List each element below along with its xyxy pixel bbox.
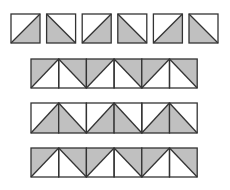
tile — [114, 148, 142, 177]
joined-row-3 — [31, 148, 197, 177]
tile — [142, 103, 170, 133]
tile — [170, 59, 198, 88]
tile-pattern-diagram — [0, 0, 230, 190]
tile — [59, 103, 87, 133]
tile — [114, 59, 142, 88]
tile — [59, 59, 87, 88]
tile — [153, 14, 182, 43]
tile — [118, 14, 147, 43]
joined-row-1 — [31, 59, 197, 88]
tile — [86, 59, 114, 88]
tile — [170, 103, 198, 133]
tile — [114, 103, 142, 133]
tile — [82, 14, 111, 43]
tile — [170, 148, 198, 177]
tile — [11, 14, 40, 43]
tile — [86, 148, 114, 177]
tile — [31, 59, 59, 88]
tile — [47, 14, 76, 43]
separate-tiles — [11, 14, 218, 43]
tile — [142, 59, 170, 88]
joined-row-2 — [31, 103, 197, 133]
tile — [86, 103, 114, 133]
tile — [189, 14, 218, 43]
tile — [31, 148, 59, 177]
tile — [59, 148, 87, 177]
tile — [142, 148, 170, 177]
tile — [31, 103, 59, 133]
